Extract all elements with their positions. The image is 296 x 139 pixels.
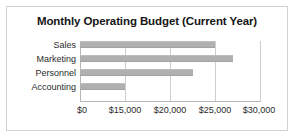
tick-label-0: $0 — [77, 105, 87, 115]
x-axis-tick-labels: $0 $15,000 $20,000 $25,000 $30,000 — [7, 105, 287, 119]
chart-container: Monthly Operating Budget (Current Year) … — [6, 6, 288, 131]
bar-personnel — [80, 69, 193, 76]
category-label-marketing: Marketing — [7, 55, 76, 64]
tick-label-15000: $15,000 — [109, 105, 142, 115]
bar-accounting — [80, 83, 125, 90]
plot-area — [80, 41, 260, 101]
bar-row-sales — [80, 41, 215, 48]
chart-title: Monthly Operating Budget (Current Year) — [7, 15, 287, 27]
y-axis-category-labels: Sales Marketing Personnel Accounting — [7, 41, 76, 101]
bars-layer — [80, 41, 260, 101]
x-axis-line — [80, 101, 261, 102]
gridline-30000 — [260, 41, 261, 101]
bar-row-personnel — [80, 69, 193, 76]
tick-label-30000: $30,000 — [243, 105, 276, 115]
tick-label-20000: $20,000 — [154, 105, 187, 115]
bar-marketing — [80, 55, 233, 62]
tick-label-25000: $25,000 — [199, 105, 232, 115]
category-label-personnel: Personnel — [7, 69, 76, 78]
bar-row-marketing — [80, 55, 233, 62]
bar-row-accounting — [80, 83, 125, 90]
bar-sales — [80, 41, 215, 48]
category-label-accounting: Accounting — [7, 83, 76, 92]
category-label-sales: Sales — [7, 41, 76, 50]
